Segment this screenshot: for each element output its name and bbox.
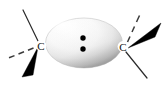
central-orbital-lobe xyxy=(46,18,123,68)
left-plain-bond-up xyxy=(23,10,38,41)
electron-dot-lower xyxy=(80,46,85,51)
left-dashed-bond xyxy=(9,48,34,58)
electron-dot-upper xyxy=(80,35,85,40)
right-carbon-bonds xyxy=(126,16,161,79)
structure-canvas: C C xyxy=(0,0,165,86)
left-carbon-bonds xyxy=(9,10,38,77)
orbital-highlight xyxy=(48,19,92,43)
chemical-structure-figure: C C xyxy=(0,0,165,86)
right-solid-wedge xyxy=(128,23,161,48)
left-solid-wedge xyxy=(22,47,38,77)
left-carbon-label: C xyxy=(37,40,44,52)
right-carbon-label: C xyxy=(119,41,126,53)
right-plain-bond-down xyxy=(126,52,147,78)
right-dashed-bond xyxy=(128,16,140,43)
